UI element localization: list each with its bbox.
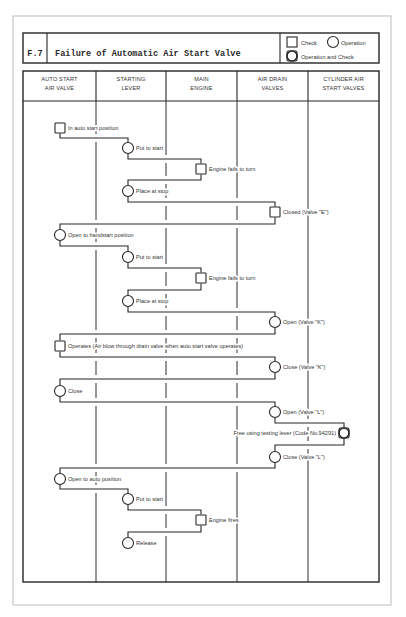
step-label: Engine fires xyxy=(209,517,239,523)
step-label: In auto start position xyxy=(68,125,118,131)
column-header-line2: AIR VALVE xyxy=(45,85,75,91)
legend-check-label: Check xyxy=(301,40,317,46)
operation-and-check-icon xyxy=(339,428,349,438)
check-square-icon xyxy=(196,273,206,283)
step-5: Closed (Valve "E") xyxy=(270,207,329,217)
check-square-icon xyxy=(55,341,65,351)
step-2: Put to start xyxy=(123,143,164,154)
step-label: Open (Valve "K") xyxy=(283,319,325,325)
check-square-icon xyxy=(270,207,280,217)
step-7: Put to start xyxy=(123,252,164,263)
legend-operation-and-check-label: Operation and Check xyxy=(301,54,354,60)
check-square-icon xyxy=(196,164,206,174)
step-label: Open to auto position xyxy=(68,476,121,482)
column-header-main-engine: MAIN ENGINE xyxy=(190,76,212,91)
step-9: Place at stop xyxy=(123,296,169,307)
table-frame xyxy=(23,71,379,582)
step-13: Close xyxy=(55,386,83,397)
operation-circle-icon xyxy=(123,252,134,263)
step-19: Engine fires xyxy=(196,515,239,525)
check-square-icon xyxy=(287,37,297,47)
flow-connector xyxy=(60,328,275,341)
column-header-line2: VALVES xyxy=(262,85,284,91)
step-15: Free using testing lever (Code No.94291) xyxy=(233,428,349,438)
step-11: Operates (Air blow through drain valve w… xyxy=(55,341,243,351)
column-header-cylinder-air-start-valves: CYLINDER AIR START VALVES xyxy=(322,76,364,91)
operation-circle-icon xyxy=(270,407,281,418)
flow-connector xyxy=(60,373,275,386)
step-label: Release xyxy=(136,540,157,546)
step-label: Closed (Valve "E") xyxy=(283,209,329,215)
operation-circle-icon xyxy=(270,362,281,373)
title-block: F.7 Failure of Automatic Air Start Valve… xyxy=(23,33,379,63)
lane-table: AUTO START AIR VALVE STARTING LEVER MAIN… xyxy=(23,71,379,582)
step-label: Place at stop xyxy=(136,188,168,194)
operation-circle-icon xyxy=(270,317,281,328)
step-12: Close (Valve "K") xyxy=(270,362,326,373)
operation-and-check-icon xyxy=(287,51,297,61)
step-8: Engine fails to turn xyxy=(196,273,255,283)
column-header-air-drain-valves: AIR DRAIN VALVES xyxy=(258,76,288,91)
column-header-line2: START VALVES xyxy=(322,85,364,91)
column-header-line1: CYLINDER AIR xyxy=(323,76,364,82)
operation-circle-icon xyxy=(123,538,134,549)
step-label: Operates (Air blow through drain valve w… xyxy=(68,343,243,349)
step-3: Engine fails to turn xyxy=(196,164,255,174)
legend-operation-label: Operation xyxy=(341,40,366,46)
operation-circle-icon xyxy=(55,474,66,485)
column-header-line1: AUTO START xyxy=(41,76,78,82)
step-label: Close xyxy=(68,388,82,394)
step-14: Open (Valve "L") xyxy=(270,407,325,418)
step-4: Place at stop xyxy=(123,186,169,197)
operation-circle-icon xyxy=(270,452,281,463)
step-label: Engine fails to turn xyxy=(209,275,255,281)
column-header-line2: LEVER xyxy=(121,85,140,91)
step-20: Release xyxy=(123,538,157,549)
page-title: Failure of Automatic Air Start Valve xyxy=(55,49,241,59)
column-header-auto-start-air-valve: AUTO START AIR VALVE xyxy=(41,76,78,91)
step-16: Close (Valve "L") xyxy=(270,452,325,463)
procedure-diagram: F.7 Failure of Automatic Air Start Valve… xyxy=(0,0,406,617)
step-label: Put to start xyxy=(136,254,163,260)
step-17: Open to auto position xyxy=(55,474,122,485)
step-6: Open to handstart position xyxy=(55,230,134,241)
step-label: Place at stop xyxy=(136,298,168,304)
operation-circle-icon xyxy=(123,296,134,307)
operation-circle-icon xyxy=(328,37,339,48)
step-label: Open (Valve "L") xyxy=(283,409,324,415)
check-square-icon xyxy=(196,515,206,525)
step-label: Put to start xyxy=(136,145,163,151)
step-label: Free using testing lever (Code No.94291) xyxy=(233,430,336,436)
check-square-icon xyxy=(55,123,65,133)
step-label: Put to start xyxy=(136,496,163,502)
operation-circle-icon xyxy=(55,230,66,241)
step-label: Close (Valve "K") xyxy=(283,364,326,370)
operation-circle-icon xyxy=(123,494,134,505)
operation-circle-icon xyxy=(123,143,134,154)
operation-circle-icon xyxy=(123,186,134,197)
column-header-starting-lever: STARTING LEVER xyxy=(117,76,146,91)
step-18: Put to start xyxy=(123,494,164,505)
step-1: In auto start position xyxy=(55,123,118,133)
column-header-line1: STARTING xyxy=(117,76,146,82)
step-label: Close (Valve "L") xyxy=(283,454,325,460)
step-label: Engine fails to turn xyxy=(209,166,255,172)
figure-id: F.7 xyxy=(27,49,42,59)
flow-connector xyxy=(275,439,344,452)
column-header-line1: MAIN xyxy=(194,76,209,82)
step-10: Open (Valve "K") xyxy=(270,317,325,328)
step-label: Open to handstart position xyxy=(68,232,134,238)
column-header-line2: ENGINE xyxy=(190,85,212,91)
column-header-line1: AIR DRAIN xyxy=(258,76,288,82)
operation-circle-icon xyxy=(55,386,66,397)
legend: Check Operation Operation and Check xyxy=(287,37,366,62)
